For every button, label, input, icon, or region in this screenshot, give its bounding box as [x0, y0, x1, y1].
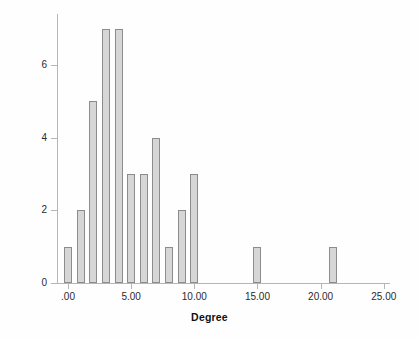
plot-area: 0246 .005.0010.0015.0020.0025.00 Count D… — [0, 0, 419, 339]
x-tick-label-20.00: 20.00 — [296, 291, 346, 302]
x-tick-label-25.00: 25.00 — [359, 291, 409, 302]
bar — [127, 174, 135, 283]
y-tick-6 — [51, 65, 57, 66]
y-axis-line — [57, 14, 58, 283]
x-tick-20.00 — [321, 284, 322, 289]
x-axis-title: Degree — [0, 311, 419, 323]
bar — [64, 247, 72, 283]
bar — [140, 174, 148, 283]
x-tick-10.00 — [194, 284, 195, 289]
x-tick-label-5.00: 5.00 — [106, 291, 156, 302]
x-tick-label-.00: .00 — [43, 291, 93, 302]
x-tick-label-15.00: 15.00 — [232, 291, 282, 302]
y-tick-0 — [51, 283, 57, 284]
bar — [115, 29, 123, 283]
bar — [329, 247, 337, 283]
x-axis-line — [57, 283, 390, 284]
x-tick-.00 — [68, 284, 69, 289]
x-tick-label-10.00: 10.00 — [169, 291, 219, 302]
y-tick-label-4: 4 — [21, 133, 47, 143]
x-tick-15.00 — [257, 284, 258, 289]
bar — [165, 247, 173, 283]
x-tick-5.00 — [131, 284, 132, 289]
bar — [102, 29, 110, 283]
y-tick-4 — [51, 138, 57, 139]
bar — [152, 138, 160, 283]
bar — [77, 210, 85, 283]
y-tick-label-0: 0 — [21, 278, 47, 288]
bar — [190, 174, 198, 283]
bar — [178, 210, 186, 283]
y-tick-label-2: 2 — [21, 205, 47, 215]
y-tick-2 — [51, 210, 57, 211]
histogram-figure: 0246 .005.0010.0015.0020.0025.00 Count D… — [0, 0, 419, 339]
x-tick-25.00 — [384, 284, 385, 289]
y-tick-label-6: 6 — [21, 60, 47, 70]
bar — [253, 247, 261, 283]
bar — [89, 101, 97, 283]
